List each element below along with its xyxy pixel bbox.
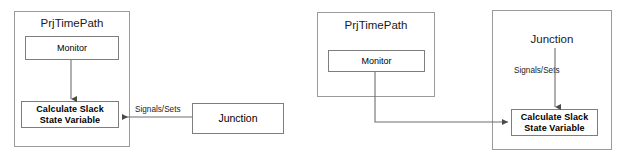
left-monitor-label: Monitor bbox=[57, 43, 87, 54]
diagram-canvas: PrjTimePath Monitor Calculate Slack Stat… bbox=[0, 0, 625, 157]
right-prjtimepath-title: PrjTimePath bbox=[318, 19, 434, 33]
left-signals-sets-label: Signals/Sets bbox=[134, 106, 182, 114]
left-junction-box: Junction bbox=[192, 103, 284, 134]
left-monitor-box: Monitor bbox=[25, 36, 119, 60]
left-calculate-slack-label: Calculate Slack State Variable bbox=[36, 104, 104, 125]
right-calculate-slack-label: Calculate Slack State Variable bbox=[521, 112, 589, 133]
left-prjtimepath-title: PrjTimePath bbox=[15, 17, 129, 31]
right-monitor-label: Monitor bbox=[361, 56, 391, 67]
left-junction-label: Junction bbox=[218, 112, 257, 124]
left-calculate-slack-box: Calculate Slack State Variable bbox=[21, 101, 119, 128]
right-signals-sets-label: Signals/Sets bbox=[513, 67, 561, 75]
right-monitor-box: Monitor bbox=[328, 50, 425, 72]
right-junction-title: Junction bbox=[493, 33, 611, 47]
right-calculate-slack-box: Calculate Slack State Variable bbox=[511, 109, 598, 136]
